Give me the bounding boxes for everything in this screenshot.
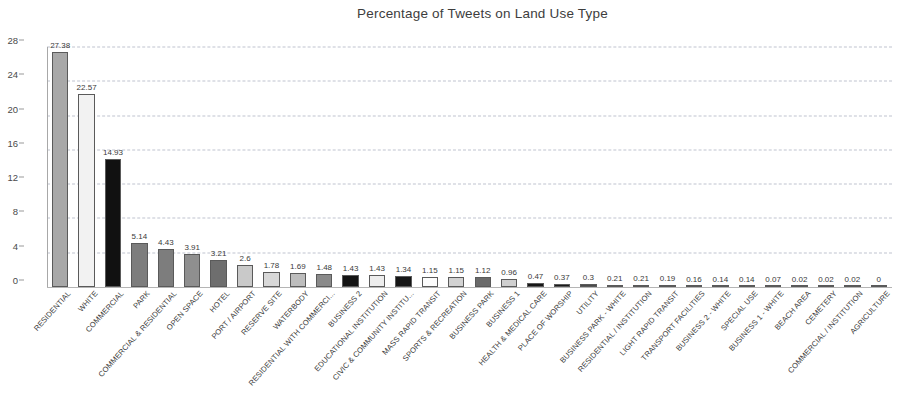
- bar-value-label: 1.15: [448, 266, 464, 275]
- bar-value-label: 1.69: [290, 262, 306, 271]
- y-axis-tick-mark: [19, 74, 24, 75]
- bar-group[interactable]: 0.14: [739, 47, 755, 287]
- bar-group[interactable]: 3.91: [184, 47, 200, 287]
- y-axis-tick-label: 28: [7, 35, 18, 46]
- bar[interactable]: [342, 275, 358, 287]
- bar-group[interactable]: 0: [871, 47, 887, 287]
- bar-group[interactable]: 2.6: [237, 47, 253, 287]
- bar[interactable]: [501, 279, 517, 287]
- bar-value-label: 1.78: [264, 261, 280, 270]
- x-axis-category-label: HOTEL: [207, 289, 231, 314]
- bar[interactable]: [131, 243, 147, 287]
- bar[interactable]: [712, 285, 728, 287]
- y-axis: 0481216202428: [0, 40, 44, 280]
- bar-series: 27.3822.5714.935.144.433.913.212.61.781.…: [47, 47, 892, 287]
- bar-group[interactable]: 0.16: [686, 47, 702, 287]
- bar[interactable]: [580, 284, 596, 287]
- bar[interactable]: [554, 284, 570, 287]
- bar-group[interactable]: 0.02: [844, 47, 860, 287]
- bar-group[interactable]: 1.15: [422, 47, 438, 287]
- bar[interactable]: [210, 260, 226, 288]
- bar-group[interactable]: 1.43: [369, 47, 385, 287]
- bar-group[interactable]: 14.93: [105, 47, 121, 287]
- x-axis-category-label: PARK: [132, 289, 152, 310]
- bar-group[interactable]: 1.48: [316, 47, 332, 287]
- bar-group[interactable]: 0.14: [712, 47, 728, 287]
- bar[interactable]: [290, 273, 306, 287]
- bar[interactable]: [475, 277, 491, 287]
- bar-group[interactable]: 0.3: [580, 47, 596, 287]
- bar[interactable]: [818, 285, 834, 287]
- bar[interactable]: [448, 277, 464, 287]
- bar-chart: Percentage of Tweets on Land Use Type 04…: [0, 0, 905, 415]
- bar-group[interactable]: 1.43: [342, 47, 358, 287]
- y-axis-tick-label: 4: [13, 240, 18, 251]
- x-axis-line: [47, 287, 892, 288]
- y-axis-tick-mark: [19, 177, 24, 178]
- bar[interactable]: [52, 52, 68, 287]
- bar-group[interactable]: 0.02: [791, 47, 807, 287]
- bar[interactable]: [633, 285, 649, 287]
- bar-value-label: 0.02: [845, 275, 861, 284]
- bar[interactable]: [527, 283, 543, 287]
- bar-group[interactable]: 0.07: [765, 47, 781, 287]
- x-axis-category-label: WHITE: [76, 289, 99, 314]
- bar[interactable]: [686, 285, 702, 287]
- bar[interactable]: [369, 275, 385, 287]
- bar[interactable]: [184, 254, 200, 288]
- bar[interactable]: [765, 285, 781, 287]
- y-axis-tick-mark: [19, 280, 24, 281]
- bar-value-label: 2.6: [239, 254, 250, 263]
- y-axis-tick-mark: [19, 211, 24, 212]
- bar[interactable]: [78, 94, 94, 287]
- bar-value-label: 0.21: [607, 274, 623, 283]
- bar-group[interactable]: 0.21: [633, 47, 649, 287]
- bar-group[interactable]: 22.57: [78, 47, 94, 287]
- bar-group[interactable]: 27.38: [52, 47, 68, 287]
- bar[interactable]: [607, 285, 623, 287]
- bar[interactable]: [871, 285, 887, 287]
- bar[interactable]: [158, 249, 174, 287]
- bar[interactable]: [395, 276, 411, 287]
- bar[interactable]: [844, 285, 860, 287]
- bar-value-label: 0.02: [792, 275, 808, 284]
- x-axis-category-labels: RESIDENTIALWHITECOMMERCIALPARKCOMMERCIAL…: [47, 289, 892, 415]
- bar-group[interactable]: 1.78: [263, 47, 279, 287]
- bar-value-label: 1.43: [369, 264, 385, 273]
- bar-value-label: 0.19: [660, 274, 676, 283]
- bar-value-label: 0.14: [713, 275, 729, 284]
- bar-group[interactable]: 0.02: [818, 47, 834, 287]
- y-axis-tick-mark: [19, 142, 24, 143]
- bar-group[interactable]: 0.47: [527, 47, 543, 287]
- bar-value-label: 0.47: [528, 272, 544, 281]
- bar-value-label: 3.91: [184, 243, 200, 252]
- bar-group[interactable]: 1.15: [448, 47, 464, 287]
- bar-value-label: 0.02: [818, 275, 834, 284]
- bar[interactable]: [237, 265, 253, 287]
- bar-group[interactable]: 0.19: [659, 47, 675, 287]
- bar-value-label: 22.57: [77, 83, 97, 92]
- bar-group[interactable]: 1.69: [290, 47, 306, 287]
- y-axis-tick-label: 8: [13, 206, 18, 217]
- bar-group[interactable]: 4.43: [158, 47, 174, 287]
- bar-value-label: 0.3: [583, 273, 594, 282]
- bar[interactable]: [659, 285, 675, 287]
- bar[interactable]: [791, 285, 807, 287]
- bar-value-label: 0: [877, 275, 881, 284]
- bar-group[interactable]: 0.96: [501, 47, 517, 287]
- bar-group[interactable]: 1.34: [395, 47, 411, 287]
- bar-group[interactable]: 0.37: [554, 47, 570, 287]
- bar[interactable]: [422, 277, 438, 287]
- bar-group[interactable]: 5.14: [131, 47, 147, 287]
- bar-value-label: 1.34: [396, 265, 412, 274]
- y-axis-tick-label: 12: [7, 172, 18, 183]
- bar-value-label: 14.93: [103, 148, 123, 157]
- bar[interactable]: [739, 285, 755, 287]
- bar[interactable]: [316, 274, 332, 287]
- bar-group[interactable]: 3.21: [210, 47, 226, 287]
- bar-group[interactable]: 0.21: [607, 47, 623, 287]
- y-axis-tick-mark: [19, 245, 24, 246]
- bar-group[interactable]: 1.12: [475, 47, 491, 287]
- bar[interactable]: [263, 272, 279, 287]
- bar[interactable]: [105, 159, 121, 287]
